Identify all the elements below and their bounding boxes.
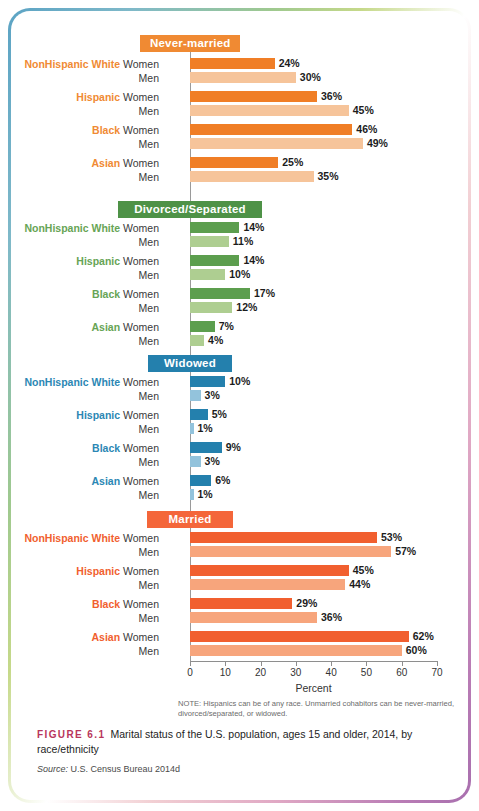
- bar-value-label-women: 53%: [381, 532, 402, 543]
- race-label: Black: [92, 442, 123, 454]
- bar-women: [190, 631, 409, 642]
- figure-inner: Never-marriedNonHispanic White Women24%M…: [11, 11, 468, 800]
- series-label: Women: [123, 321, 159, 333]
- bar-value-label-men: 60%: [406, 645, 427, 656]
- bar-women: [190, 475, 211, 486]
- bar-category-label-women: Asian Women: [11, 631, 159, 644]
- bar-value-label-men: 45%: [353, 105, 374, 116]
- bar-category-label-women: Hispanic Women: [11, 565, 159, 578]
- race-label: Asian: [91, 475, 123, 487]
- chart-group-row: NonHispanic White Women53%Men57%: [11, 532, 468, 564]
- race-label: NonHispanic White: [24, 58, 123, 70]
- bar-women: [190, 124, 352, 135]
- bar-category-label-women: Black Women: [11, 288, 159, 301]
- bar-value-label-women: 14%: [243, 222, 264, 233]
- race-label: Asian: [91, 321, 123, 333]
- bar-category-label-men: Men: [11, 612, 159, 625]
- figure-source: Source: U.S. Census Bureau 2014d: [37, 764, 447, 774]
- chart-group-row: NonHispanic White Women10%Men3%: [11, 376, 468, 408]
- chart-group-row: Black Women29%Men36%: [11, 598, 468, 630]
- bar-value-label-men: 4%: [208, 335, 223, 346]
- figure-number: FIGURE 6.1: [37, 729, 105, 740]
- race-label: Hispanic: [76, 409, 123, 421]
- bar-men: [190, 612, 317, 623]
- x-tick-50: [366, 661, 367, 666]
- series-label: Men: [139, 72, 159, 84]
- chart-group-row: Asian Women6%Men1%: [11, 475, 468, 507]
- bar-category-label-women: NonHispanic White Women: [11, 222, 159, 235]
- bar-category-label-men: Men: [11, 546, 159, 559]
- bar-value-label-men: 35%: [318, 171, 339, 182]
- chart-group-row: Hispanic Women5%Men1%: [11, 409, 468, 441]
- race-label: NonHispanic White: [24, 376, 123, 388]
- bar-women: [190, 58, 275, 69]
- bar-value-label-men: 1%: [198, 423, 213, 434]
- bar-category-label-men: Men: [11, 645, 159, 658]
- bar-value-label-women: 6%: [215, 475, 230, 486]
- bar-men: [190, 390, 201, 401]
- chart-group-row: Black Women9%Men3%: [11, 442, 468, 474]
- bar-women: [190, 376, 225, 387]
- bar-category-label-women: Black Women: [11, 598, 159, 611]
- bar-men: [190, 335, 204, 346]
- series-label: Men: [139, 236, 159, 248]
- chart-group-row: Hispanic Women36%Men45%: [11, 91, 468, 123]
- series-label: Women: [123, 288, 159, 300]
- bar-value-label-women: 29%: [296, 598, 317, 609]
- bar-women: [190, 288, 250, 299]
- bar-value-label-men: 57%: [395, 546, 416, 557]
- bar-category-label-women: NonHispanic White Women: [11, 532, 159, 545]
- bar-men: [190, 423, 194, 434]
- series-label: Women: [123, 565, 159, 577]
- bar-women: [190, 442, 222, 453]
- bar-value-label-women: 17%: [254, 288, 275, 299]
- series-label: Women: [123, 255, 159, 267]
- source-text: U.S. Census Bureau 2014d: [68, 764, 180, 774]
- x-tick-label-20: 20: [255, 667, 266, 678]
- race-label: NonHispanic White: [24, 532, 123, 544]
- x-tick-label-30: 30: [290, 667, 301, 678]
- series-label: Women: [123, 598, 159, 610]
- bar-category-label-women: NonHispanic White Women: [11, 58, 159, 71]
- bar-women: [190, 598, 292, 609]
- series-label: Men: [139, 302, 159, 314]
- bar-men: [190, 72, 296, 83]
- x-tick-label-60: 60: [396, 667, 407, 678]
- race-label: Black: [92, 598, 123, 610]
- bar-category-label-women: Hispanic Women: [11, 409, 159, 422]
- figure-caption-block: FIGURE 6.1Marital status of the U.S. pop…: [37, 727, 447, 774]
- bar-value-label-women: 45%: [353, 565, 374, 576]
- bar-men: [190, 105, 349, 116]
- bar-category-label-men: Men: [11, 72, 159, 85]
- race-label: Black: [92, 124, 123, 136]
- series-label: Men: [139, 456, 159, 468]
- series-label: Women: [123, 91, 159, 103]
- bar-value-label-women: 5%: [212, 409, 227, 420]
- chart-group-row: Hispanic Women45%Men44%: [11, 565, 468, 597]
- series-label: Women: [123, 376, 159, 388]
- chart-group-row: Asian Women7%Men4%: [11, 321, 468, 353]
- bar-men: [190, 269, 225, 280]
- race-label: Asian: [91, 631, 123, 643]
- series-label: Men: [139, 546, 159, 558]
- series-label: Women: [123, 124, 159, 136]
- bar-men: [190, 645, 402, 656]
- race-label: Hispanic: [76, 255, 123, 267]
- race-label: Asian: [91, 157, 123, 169]
- bar-category-label-men: Men: [11, 105, 159, 118]
- bar-value-label-women: 9%: [226, 442, 241, 453]
- bar-category-label-men: Men: [11, 335, 159, 348]
- bar-value-label-men: 12%: [236, 302, 257, 313]
- series-label: Women: [123, 532, 159, 544]
- x-tick-60: [402, 661, 403, 666]
- bar-category-label-women: Asian Women: [11, 475, 159, 488]
- bar-value-label-women: 7%: [219, 321, 234, 332]
- bar-women: [190, 91, 317, 102]
- bar-value-label-women: 36%: [321, 91, 342, 102]
- bar-value-label-men: 36%: [321, 612, 342, 623]
- chart-group-row: Asian Women25%Men35%: [11, 157, 468, 189]
- bar-value-label-men: 1%: [198, 489, 213, 500]
- bar-value-label-men: 3%: [205, 390, 220, 401]
- bar-value-label-men: 10%: [229, 269, 250, 280]
- bar-category-label-women: Black Women: [11, 442, 159, 455]
